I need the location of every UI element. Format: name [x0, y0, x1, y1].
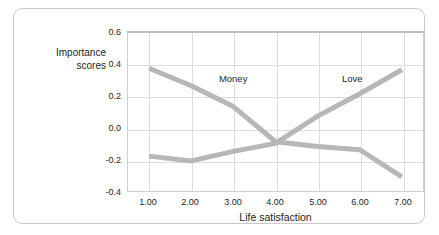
- x-axis-title: Life satisfaction: [127, 211, 424, 223]
- y-tick-label: -0.4: [85, 187, 121, 197]
- x-tick-label: 6.00: [340, 197, 380, 207]
- x-tick-label: 1.00: [128, 197, 168, 207]
- series-label-money: Money: [217, 73, 250, 84]
- y-tick-label: 0.4: [85, 59, 121, 69]
- chart-card: Importance scores 0.6 0.4 0.2 0.0 -0.2 -…: [13, 8, 425, 224]
- y-tick-label: 0.6: [85, 27, 121, 37]
- series-lines: [128, 33, 423, 191]
- x-tick-label: 4.00: [255, 197, 295, 207]
- x-tick-label: 2.00: [170, 197, 210, 207]
- x-tick-label: 7.00: [383, 197, 423, 207]
- plot-area: [127, 31, 424, 192]
- series-label-love: Love: [340, 73, 365, 84]
- y-tick-label: 0.2: [85, 91, 121, 101]
- y-tick-label: -0.2: [85, 155, 121, 165]
- y-tick-label: 0.0: [85, 123, 121, 133]
- x-tick-label: 5.00: [298, 197, 338, 207]
- plot-inner: [128, 33, 423, 191]
- x-tick-label: 3.00: [213, 197, 253, 207]
